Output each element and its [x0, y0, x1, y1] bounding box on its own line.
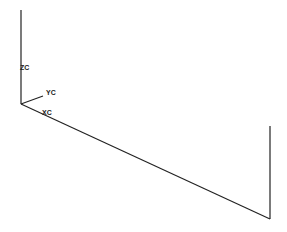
z-axis-label: ZC: [20, 64, 29, 71]
wireframe-canvas: ZC YC XC: [0, 0, 287, 232]
y-axis-label: YC: [46, 89, 56, 96]
x-axis-label: XC: [42, 109, 52, 116]
x-axis-edge: [21, 104, 270, 219]
y-axis-line: [21, 96, 43, 104]
